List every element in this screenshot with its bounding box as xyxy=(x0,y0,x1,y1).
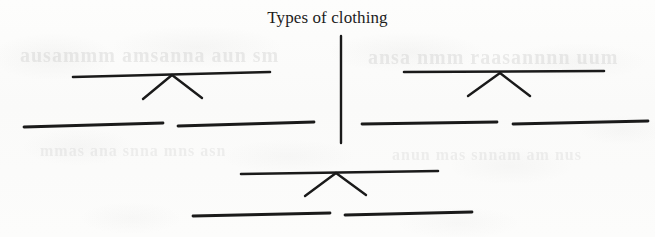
tree-diagram xyxy=(0,0,655,237)
bottom-branch-leg-1 xyxy=(305,173,336,196)
bottom-branch-leg-2 xyxy=(336,173,366,195)
left-branch-leg-2 xyxy=(172,75,202,98)
left-answer-line-2[interactable] xyxy=(178,122,314,126)
right-answer-line-1[interactable] xyxy=(362,122,497,124)
right-branch-leg-2 xyxy=(500,73,530,96)
bottom-branch-group xyxy=(193,171,472,216)
right-answer-line-2[interactable] xyxy=(513,121,648,124)
left-answer-line-1[interactable] xyxy=(24,123,163,127)
worksheet-page: ausammm amsanna aun sm ansa nmm raasannn… xyxy=(0,0,655,237)
right-branch-leg-1 xyxy=(468,73,500,96)
left-branch-group xyxy=(24,72,314,127)
bottom-answer-line-1[interactable] xyxy=(193,213,330,216)
bottom-answer-line-2[interactable] xyxy=(345,212,472,215)
right-branch-group xyxy=(362,71,648,124)
right-branch-crossbar xyxy=(404,71,604,72)
left-branch-leg-1 xyxy=(143,75,172,99)
bottom-branch-crossbar xyxy=(241,171,438,174)
